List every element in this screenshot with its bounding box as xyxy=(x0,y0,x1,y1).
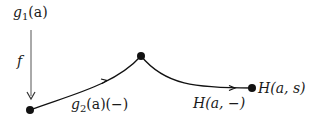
label-H-a-minus: H(a, −) xyxy=(193,96,245,110)
label-g2-a-minus: g2(a)(−) xyxy=(71,97,128,111)
end-node xyxy=(248,84,256,92)
H-path xyxy=(141,56,252,91)
label-g1-a: g1(a) xyxy=(13,5,48,19)
peak-node xyxy=(137,52,145,60)
label-f: f xyxy=(17,54,22,68)
label-H-a-s: H(a, s) xyxy=(258,81,306,95)
f-arrow xyxy=(27,30,35,99)
homotopy-diagram: g1(a) f g2(a)(−) H(a, −) H(a, s) xyxy=(0,0,316,122)
start-node xyxy=(26,106,34,114)
